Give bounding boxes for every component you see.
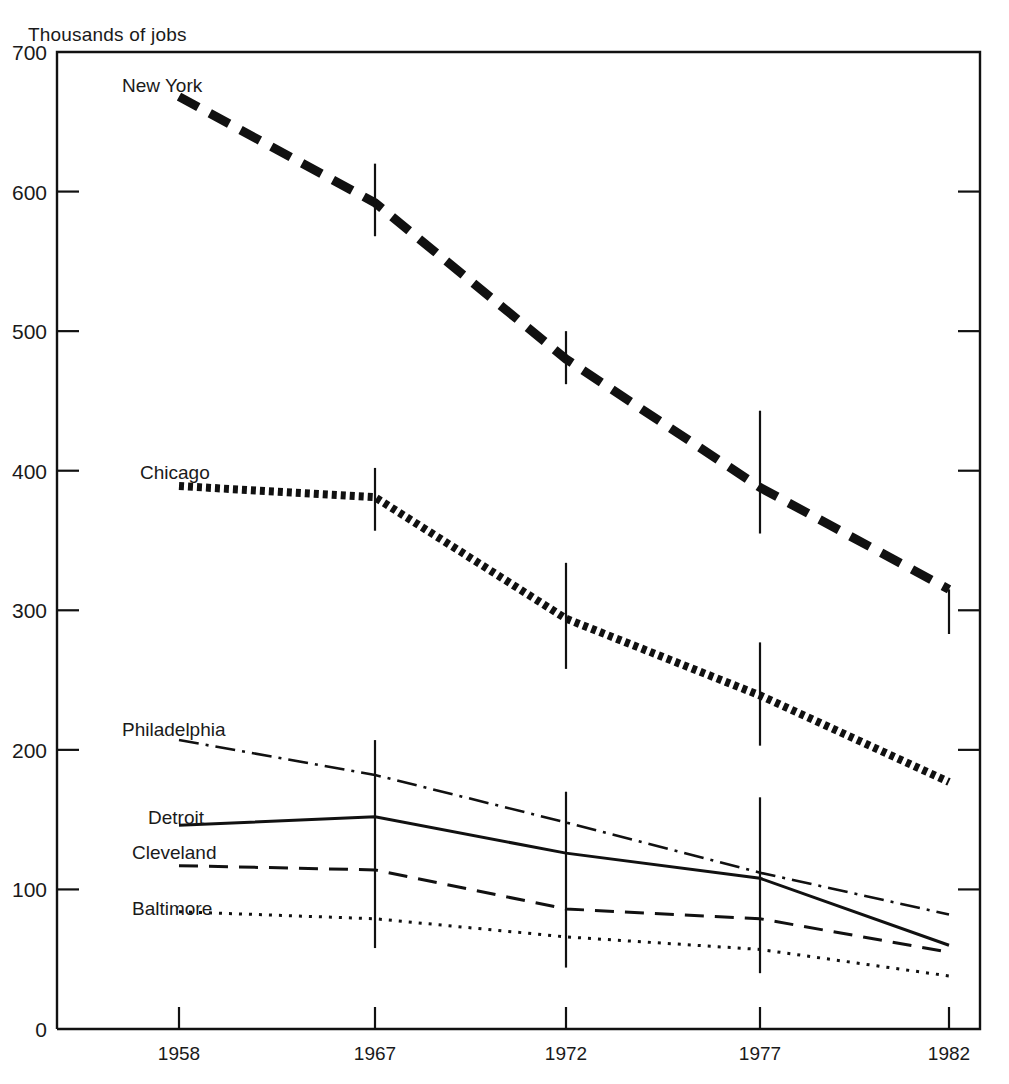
x-tick-label: 1977 — [739, 1043, 781, 1064]
series-label-detroit: Detroit — [148, 807, 205, 828]
y-tick-label: 300 — [12, 599, 47, 622]
data-series-group — [179, 97, 949, 976]
y-axis-title: Thousands of jobs — [28, 24, 187, 46]
error-bars-group — [375, 164, 949, 974]
series-label-cleveland: Cleveland — [132, 842, 217, 863]
y-tick-label: 400 — [12, 460, 47, 483]
plot-frame — [57, 52, 980, 1029]
series-label-baltimore: Baltimore — [132, 898, 212, 919]
series-line-baltimore — [179, 912, 949, 976]
x-tick-label: 1972 — [545, 1043, 587, 1064]
y-tick-label: 500 — [12, 320, 47, 343]
y-tick-label: 0 — [35, 1018, 47, 1041]
series-line-philadelphia — [179, 740, 949, 914]
y-tick-label: 100 — [12, 878, 47, 901]
x-axis-ticks: 19581967197219771982 — [158, 1007, 970, 1064]
y-tick-label: 600 — [12, 181, 47, 204]
x-tick-label: 1982 — [928, 1043, 970, 1064]
series-labels-group: New YorkChicagoPhiladelphiaDetroitClevel… — [122, 75, 226, 919]
jobs-line-chart: Thousands of jobs 0100200300400500600700… — [0, 0, 1009, 1084]
series-line-detroit — [179, 817, 949, 945]
y-axis-ticks: 0100200300400500600700 — [12, 41, 980, 1041]
plot-area: 0100200300400500600700 19581967197219771… — [0, 0, 1009, 1084]
series-label-chicago: Chicago — [140, 462, 210, 483]
series-label-philadelphia: Philadelphia — [122, 719, 226, 740]
x-tick-label: 1958 — [158, 1043, 200, 1064]
series-line-cleveland — [179, 866, 949, 953]
x-tick-label: 1967 — [354, 1043, 396, 1064]
series-line-new-york — [179, 97, 949, 590]
y-tick-label: 200 — [12, 739, 47, 762]
series-label-new-york: New York — [122, 75, 203, 96]
